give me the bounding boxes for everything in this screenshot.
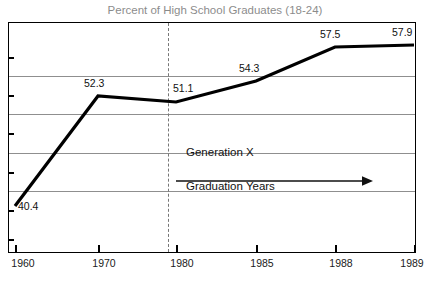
x-axis-label-1988: 1988 <box>329 257 352 269</box>
x-axis-label-1985: 1985 <box>250 257 273 269</box>
data-label-1988: 57.5 <box>320 28 340 40</box>
enrollment-line-series <box>9 23 417 254</box>
data-label-1970: 52.3 <box>84 77 104 89</box>
x-axis-label-1960: 1960 <box>11 257 34 269</box>
x-axis-label-1989: 1989 <box>400 257 423 269</box>
title-line-1: Percent of High School Graduates (18-24) <box>0 4 430 17</box>
chart-plot-area: Generation X Graduation Years 40.4 52.3 … <box>8 22 416 253</box>
data-label-1985: 54.3 <box>239 62 259 74</box>
data-label-1989: 57.9 <box>392 26 412 38</box>
x-axis-label-1970: 1970 <box>92 257 115 269</box>
data-label-1960: 40.4 <box>18 200 38 212</box>
series-polyline <box>15 45 414 206</box>
data-label-1980: 51.1 <box>173 82 193 94</box>
x-axis-label-1980: 1980 <box>170 257 193 269</box>
